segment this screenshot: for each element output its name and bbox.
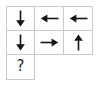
arrow-up-icon [72, 34, 85, 51]
grid-row [6, 6, 93, 31]
cell-r2c1[interactable] [6, 31, 35, 56]
cell-r3c1[interactable]: ? [6, 55, 35, 80]
arrow-grid-puzzle: ? [0, 0, 100, 95]
arrow-down-icon [14, 10, 27, 27]
grid-row [6, 31, 93, 56]
cell-r3c2-empty [35, 55, 64, 80]
arrow-left-icon [69, 12, 88, 25]
cell-r3c3-empty [64, 55, 93, 80]
cell-r2c2[interactable] [35, 31, 64, 56]
grid-row: ? [6, 55, 93, 80]
arrow-right-icon [40, 36, 59, 49]
cell-r1c2[interactable] [35, 6, 64, 31]
cell-r2c3[interactable] [64, 31, 93, 56]
question-mark-icon: ? [17, 59, 25, 74]
cell-r1c3[interactable] [64, 6, 93, 31]
arrow-left-icon [40, 12, 59, 25]
arrow-down-icon [14, 34, 27, 51]
puzzle-grid: ? [6, 6, 93, 80]
cell-r1c1[interactable] [6, 6, 35, 31]
